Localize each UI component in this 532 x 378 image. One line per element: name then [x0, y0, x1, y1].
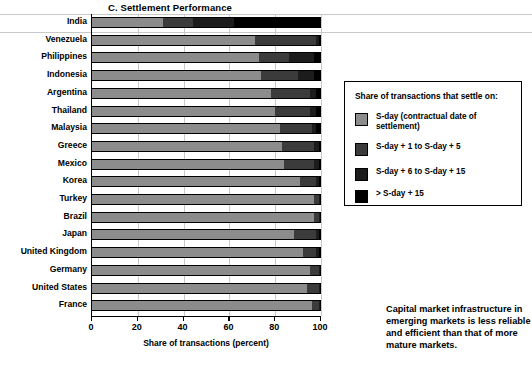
bar-segment	[319, 35, 321, 46]
bar-segment	[316, 123, 321, 134]
bar-segment	[234, 17, 321, 28]
bar-segment	[284, 159, 314, 170]
bar-segment	[92, 176, 300, 187]
legend-swatch-icon	[355, 113, 368, 126]
legend-item-label: S-day + 6 to S-day + 15	[376, 167, 516, 177]
category-label: Mexico	[58, 158, 87, 169]
bar-row: France	[92, 300, 321, 311]
category-label: Philippines	[41, 51, 87, 62]
chart-title: C. Settlement Performance	[0, 2, 340, 13]
category-label: Argentina	[47, 87, 87, 98]
pull-quote-caption: Capital market infrastructure in emergin…	[386, 303, 532, 351]
category-label: Japan	[62, 228, 87, 239]
category-label: Germany	[50, 264, 87, 275]
bar-row: Argentina	[92, 88, 321, 99]
bar-segment	[92, 247, 303, 258]
category-label: Korea	[63, 175, 87, 186]
bar-row: Greece	[92, 141, 321, 152]
x-axis-tick-label: 20	[132, 322, 142, 332]
bar-segment	[310, 265, 319, 276]
bar-row: Indonesia	[92, 70, 321, 81]
legend-item-label: S-day (contractual date of settlement)	[376, 112, 516, 132]
bar-segment	[319, 229, 321, 240]
bar-row: Korea	[92, 176, 321, 187]
x-axis-tick-label: 80	[269, 322, 279, 332]
bar-segment	[320, 194, 321, 205]
bar-segment	[303, 247, 317, 258]
x-axis-tick-label: 40	[178, 322, 188, 332]
bar-segment	[92, 35, 255, 46]
bar-segment	[92, 159, 284, 170]
bar-segment	[294, 229, 317, 240]
bar-segment	[92, 141, 282, 152]
bar-row: Thailand	[92, 106, 321, 117]
bar-row: Japan	[92, 229, 321, 240]
bar-segment	[298, 70, 314, 81]
bar-row: Germany	[92, 265, 321, 276]
bar-segment	[92, 52, 259, 63]
bar-segment	[261, 70, 298, 81]
bar-segment	[255, 35, 317, 46]
category-label: Thailand	[52, 105, 87, 116]
legend-swatch-icon	[355, 190, 368, 203]
x-axis-tick	[183, 316, 184, 321]
bar-segment	[271, 88, 310, 99]
bar-segment	[307, 283, 318, 294]
legend-swatch-icon	[355, 168, 368, 181]
bar-segment	[319, 247, 321, 258]
bar-segment	[316, 106, 321, 117]
category-label: Venezuela	[45, 34, 87, 45]
bar-segment	[319, 159, 321, 170]
legend-swatch-icon	[355, 143, 368, 156]
category-label: Malaysia	[51, 122, 87, 133]
bar-segment	[92, 70, 261, 81]
bar-segment	[312, 300, 319, 311]
x-axis-tick	[274, 316, 275, 321]
bar-segment	[259, 52, 289, 63]
bar-segment	[163, 17, 193, 28]
bar-row: Turkey	[92, 194, 321, 205]
x-axis-tick-label: 100	[312, 322, 327, 332]
bar-segment	[320, 300, 321, 311]
bar-segment	[282, 141, 314, 152]
bar-segment	[314, 52, 321, 63]
bar-segment	[92, 17, 163, 28]
bar-segment	[314, 70, 321, 81]
x-axis-tick	[137, 316, 138, 321]
legend-title: Share of transactions that settle on:	[355, 91, 510, 102]
bar-segment	[92, 229, 294, 240]
bar-segment	[310, 106, 317, 117]
bar-segment	[316, 88, 321, 99]
bar-row: Mexico	[92, 159, 321, 170]
bar-row: Malaysia	[92, 123, 321, 134]
x-axis-tick	[320, 316, 321, 321]
category-label: France	[59, 299, 87, 310]
bar-segment	[319, 176, 321, 187]
x-axis-tick-label: 60	[223, 322, 233, 332]
category-label: India	[67, 16, 87, 27]
x-axis-tick	[228, 316, 229, 321]
bar-row: United States	[92, 283, 321, 294]
bar-row: Venezuela	[92, 35, 321, 46]
bar-segment	[310, 88, 317, 99]
bar-segment	[92, 106, 275, 117]
x-axis-tick-label: 0	[88, 322, 93, 332]
bar-segment	[92, 300, 312, 311]
bar-segment	[320, 212, 321, 223]
bar-segment	[92, 212, 314, 223]
bar-row: Philippines	[92, 52, 321, 63]
bar-row: United Kingdom	[92, 247, 321, 258]
bar-segment	[320, 283, 321, 294]
bar-row: Brazil	[92, 212, 321, 223]
bar-segment	[92, 123, 280, 134]
bar-segment	[92, 194, 314, 205]
category-label: Turkey	[59, 193, 87, 204]
bar-segment	[280, 123, 312, 134]
bar-segment	[320, 265, 321, 276]
chart-panel: C. Settlement Performance IndiaVenezuela…	[0, 0, 340, 378]
x-axis-line	[91, 316, 321, 317]
x-axis-tick	[91, 316, 92, 321]
bar-segment	[92, 283, 307, 294]
category-label: Brazil	[64, 211, 87, 222]
bar-segment	[92, 88, 271, 99]
